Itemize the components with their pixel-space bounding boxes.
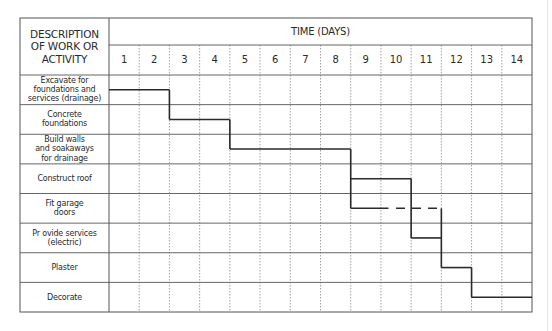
day-number: 12: [441, 45, 471, 75]
activity-label-line: Build walls: [35, 135, 94, 144]
day-number: 14: [502, 45, 532, 75]
header-description-line: ACTIVITY: [30, 53, 99, 65]
day-number: 11: [411, 45, 441, 75]
activity-label-line: Fit garage: [45, 199, 83, 208]
activity-label-line: doors: [45, 208, 83, 217]
activity-label-line: and soakaways: [35, 144, 94, 153]
day-number: 13: [472, 45, 502, 75]
day-number: 6: [260, 45, 290, 75]
activity-label: Excavate forfoundations andservices (dra…: [20, 75, 109, 105]
activity-label-line: (electric): [32, 238, 96, 247]
activity-label: Fit garagedoors: [20, 194, 109, 224]
header-description-line: OF WORK OR: [30, 40, 99, 52]
day-number: 9: [351, 45, 381, 75]
day-number: 2: [139, 45, 169, 75]
activity-label: Construct roof: [20, 164, 109, 194]
activity-label-line: Pr ovide services: [32, 229, 96, 238]
day-number: 10: [381, 45, 411, 75]
day-number: 7: [290, 45, 320, 75]
activity-label-line: foundations: [42, 119, 87, 128]
header-description: DESCRIPTION OF WORK OR ACTIVITY: [20, 18, 109, 75]
header-description-line: DESCRIPTION: [30, 28, 99, 40]
day-number: 5: [230, 45, 260, 75]
activity-label-line: Excavate for: [28, 76, 101, 85]
activity-label-line: foundations and: [28, 85, 101, 94]
activity-label-line: Plaster: [51, 263, 77, 272]
activity-label-line: Decorate: [47, 293, 82, 302]
gantt-chart: DESCRIPTION OF WORK OR ACTIVITY TIME (DA…: [0, 0, 552, 331]
activity-label: Decorate: [20, 282, 109, 312]
header-time-label: TIME (DAYS): [109, 18, 532, 45]
activity-label-line: Construct roof: [37, 174, 91, 183]
activity-label: Plaster: [20, 253, 109, 283]
day-number: 3: [169, 45, 199, 75]
day-number: 4: [200, 45, 230, 75]
day-number: 8: [321, 45, 351, 75]
activity-label: Pr ovide services(electric): [20, 223, 109, 253]
activity-label-line: services (drainage): [28, 94, 101, 103]
day-number: 1: [109, 45, 139, 75]
activity-label-line: for drainage: [35, 154, 94, 163]
activity-label-line: Concrete: [42, 110, 87, 119]
activity-label: Concretefoundations: [20, 105, 109, 135]
activity-label: Build wallsand soakawaysfor drainage: [20, 134, 109, 164]
